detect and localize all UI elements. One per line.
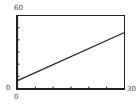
plot-area [0, 0, 139, 105]
plot-frame [17, 16, 125, 90]
data-line [18, 33, 125, 81]
axis-ticks [18, 28, 107, 89]
